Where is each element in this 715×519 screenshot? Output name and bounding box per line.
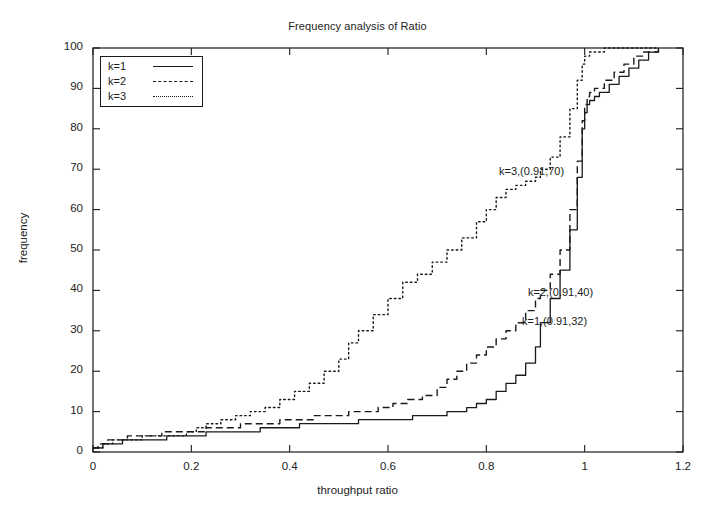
x-tick-label: 0.6 — [358, 460, 418, 472]
y-tick-label: 50 — [31, 242, 83, 254]
y-axis-ticks — [93, 48, 683, 452]
y-tick-label: 90 — [31, 80, 83, 92]
x-tick-label: 1 — [555, 460, 615, 472]
series-line-k3 — [93, 48, 658, 448]
legend-entry-k1: k=1 — [101, 59, 202, 75]
data-annotation: k=1,(0.91,32) — [522, 315, 587, 327]
y-tick-label: 100 — [31, 40, 83, 52]
chart-figure: Frequency analysis of Ratio frequency th… — [0, 0, 715, 519]
y-tick-label: 0 — [31, 444, 83, 456]
legend-label-k1: k=1 — [108, 60, 126, 72]
y-tick-label: 70 — [31, 161, 83, 173]
x-axis-label: throughput ratio — [0, 484, 715, 496]
data-series-group — [93, 48, 658, 448]
x-tick-label: 1.2 — [653, 460, 713, 472]
data-annotation: k=2,(0.91,40) — [528, 286, 593, 298]
legend-line-solid — [153, 66, 193, 67]
x-axis-ticks — [93, 48, 683, 452]
plot-frame — [93, 48, 683, 452]
data-annotation: k=3,(0.91,70) — [499, 165, 564, 177]
legend-label-k3: k=3 — [108, 90, 126, 102]
legend-line-dotted — [153, 96, 193, 97]
y-tick-label: 60 — [31, 202, 83, 214]
legend-entry-k2: k=2 — [101, 74, 202, 90]
y-tick-label: 20 — [31, 363, 83, 375]
legend-entry-k3: k=3 — [101, 89, 202, 105]
y-tick-label: 80 — [31, 121, 83, 133]
y-tick-label: 10 — [31, 404, 83, 416]
x-tick-label: 0 — [63, 460, 123, 472]
legend-line-dashed — [153, 81, 193, 82]
y-tick-label: 30 — [31, 323, 83, 335]
y-axis-label: frequency — [17, 193, 29, 283]
y-tick-label: 40 — [31, 282, 83, 294]
legend: k=1 k=2 k=3 — [100, 56, 203, 107]
x-tick-label: 0.8 — [456, 460, 516, 472]
legend-label-k2: k=2 — [108, 75, 126, 87]
x-tick-label: 0.2 — [161, 460, 221, 472]
x-tick-label: 0.4 — [260, 460, 320, 472]
